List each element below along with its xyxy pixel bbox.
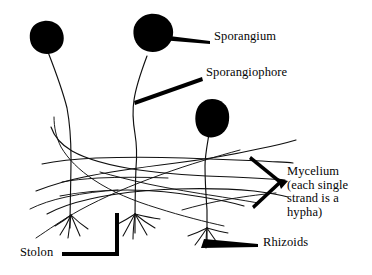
label-mycelium-line-3: strand is a [287, 192, 348, 206]
stolon-runner [60, 190, 244, 206]
sporangiophore-stalk-right [205, 134, 209, 240]
hypha-strand-10 [30, 190, 118, 209]
label-mycelium-line-1: Mycelium [287, 165, 348, 179]
label-rhizoids: Rhizoids [263, 236, 308, 250]
sporangiophore-leader-line [134, 77, 203, 105]
hypha-strand-5 [54, 117, 224, 226]
label-sporangiophore: Sporangiophore [206, 66, 287, 80]
sporangium-middle [133, 14, 173, 52]
sporangiophore-stalk-left [48, 52, 71, 228]
label-stolon: Stolon [20, 246, 53, 260]
sporangiophore-stalk-middle [133, 56, 147, 233]
label-mycelium: Mycelium (each single strand is a hypha) [287, 165, 348, 219]
rhizoid-tuft-left [55, 215, 88, 238]
mycelium-leader-bracket [249, 156, 283, 185]
diagram-canvas [0, 0, 372, 275]
label-mycelium-line-2: (each single [287, 179, 348, 193]
mycelium-leader-bracket-lower [252, 179, 283, 209]
label-mycelium-line-4: hypha) [287, 206, 348, 220]
sporangium-right [195, 99, 229, 137]
sporangium-left [30, 21, 64, 54]
rhizoid-tuft-middle [116, 214, 160, 239]
fungus-diagram: Sporangium Sporangiophore Mycelium (each… [0, 0, 372, 275]
rhizoids-leader-wedge [201, 239, 258, 248]
label-sporangium: Sporangium [214, 30, 276, 44]
